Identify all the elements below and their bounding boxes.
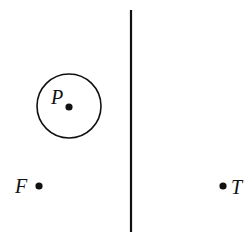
point-f-dot <box>35 182 42 189</box>
diagram-canvas: P F T <box>0 0 251 239</box>
point-p-dot <box>65 103 72 110</box>
point-t-label: T <box>231 176 244 198</box>
point-f-label: F <box>14 175 28 197</box>
point-t-dot <box>219 182 226 189</box>
point-p-label: P <box>50 86 63 108</box>
